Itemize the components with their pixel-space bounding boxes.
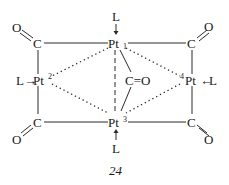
pt2-index: 2 [48, 72, 52, 81]
ligand-top: L [112, 9, 120, 24]
pt1-symbol: Pt [108, 36, 119, 51]
oxygen-top-right: O [204, 19, 213, 34]
bond-pt1-co [120, 50, 131, 72]
double-bond-tr-b [199, 33, 209, 41]
double-bond-bl-a [21, 125, 31, 133]
pt1-index: 1 [123, 42, 127, 51]
carbon-top-right: C [187, 36, 196, 51]
pt4-index: 4 [180, 72, 184, 81]
compound-number-caption: 24 [109, 163, 123, 178]
ligand-right: L [209, 73, 217, 88]
interaction-pt1-pt2 [52, 48, 108, 76]
interaction-pt4-pt3 [126, 84, 180, 113]
double-bond-tl-b [20, 33, 31, 41]
central-carbonyl: C=O [125, 73, 150, 88]
pt2-symbol: Pt [33, 73, 44, 88]
carbon-bottom-right: C [187, 115, 196, 130]
interaction-pt1-pt4 [126, 48, 180, 76]
pt4-symbol: Pt [185, 73, 196, 88]
oxygen-top-left: O [12, 20, 21, 35]
pt3-symbol: Pt [108, 115, 119, 130]
double-bond-tl-a [22, 30, 33, 38]
double-bond-bl-b [23, 128, 33, 136]
bond-co-pt3 [121, 87, 131, 111]
carbon-bottom-left: C [33, 115, 42, 130]
interaction-pt2-pt3 [52, 84, 108, 113]
ligand-bottom: L [112, 141, 120, 156]
pt4-carbonyl-cluster-diagram: O O C C L Pt 1 L → Pt 2 C=O 4 Pt ← L C C… [0, 0, 229, 185]
ligand-left: L [16, 73, 24, 88]
oxygen-bottom-left: O [12, 132, 21, 147]
pt3-index: 3 [123, 115, 127, 124]
carbon-top-left: C [33, 36, 42, 51]
arrowhead-down-icon [114, 31, 119, 35]
oxygen-bottom-right: O [204, 132, 213, 147]
